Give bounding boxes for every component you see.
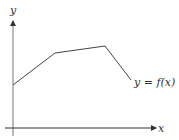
curve-label: y = f(x) (133, 76, 175, 89)
x-axis-label: x (158, 122, 165, 135)
function-graph: y x y = f(x) (0, 0, 179, 140)
function-curve (13, 46, 131, 85)
y-axis-label: y (9, 4, 17, 17)
